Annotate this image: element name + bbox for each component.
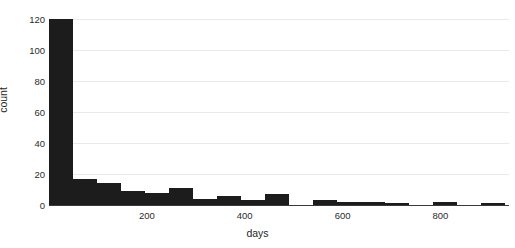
gridline — [49, 143, 509, 144]
y-axis-title-wrap: count — [12, 0, 32, 210]
x-tick-label: 200 — [139, 210, 155, 221]
x-axis-line — [49, 205, 509, 206]
y-axis-title: count — [0, 87, 9, 113]
x-tick-label: 800 — [433, 210, 449, 221]
gridline — [49, 81, 509, 82]
histogram-bar — [145, 193, 169, 205]
x-axis-title: days — [0, 227, 515, 239]
histogram-bar — [121, 191, 145, 205]
x-tick-label: 600 — [335, 210, 351, 221]
gridline — [49, 19, 509, 20]
gridline — [49, 174, 509, 175]
plot-area — [49, 13, 509, 205]
gridline — [49, 112, 509, 113]
histogram-bar — [49, 19, 73, 205]
histogram-figure: 020406080100120 count 200400600800 days — [0, 0, 515, 248]
histogram-bar — [169, 188, 193, 205]
x-tick-label: 400 — [237, 210, 253, 221]
gridline — [49, 50, 509, 51]
histogram-bar — [217, 196, 241, 205]
histogram-bar — [73, 179, 97, 205]
histogram-bar — [97, 183, 121, 205]
histogram-bar — [265, 194, 289, 205]
